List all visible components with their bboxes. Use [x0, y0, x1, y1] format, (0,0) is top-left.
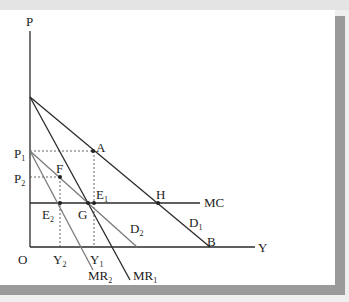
y2-label: Y2 — [53, 252, 66, 269]
point-e1-label: E1 — [96, 187, 108, 204]
quantity-axis-label: Y — [258, 240, 268, 255]
point-h-label: H — [156, 187, 165, 202]
diagram-frame: P Y O P1 P2 Y2 Y1 A F G H B E1 E2 MC — [0, 0, 349, 302]
point-a-label: A — [96, 140, 106, 155]
price-axis-label: P — [26, 14, 33, 29]
d1-label: D1 — [189, 215, 202, 232]
d2-label: D2 — [130, 221, 143, 238]
p2-label: P2 — [14, 171, 25, 188]
y1-label: Y1 — [90, 252, 103, 269]
point-g-label: G — [78, 207, 87, 222]
origin-label: O — [18, 252, 27, 267]
d2-demand-curve — [30, 151, 137, 247]
monopoly-diagram: P Y O P1 P2 Y2 Y1 A F G H B E1 E2 MC — [0, 0, 349, 302]
mr1-curve — [30, 97, 130, 280]
point-b-label: B — [207, 234, 216, 249]
point-f-label: F — [56, 161, 63, 176]
point-e2 — [58, 201, 62, 205]
point-a — [91, 149, 95, 153]
mr1-label: MR1 — [133, 268, 157, 285]
mr2-label: MR2 — [88, 268, 112, 285]
mc-label: MC — [204, 195, 224, 210]
point-e2-label: E2 — [42, 207, 54, 224]
point-g — [86, 201, 90, 205]
p1-label: P1 — [14, 146, 25, 163]
